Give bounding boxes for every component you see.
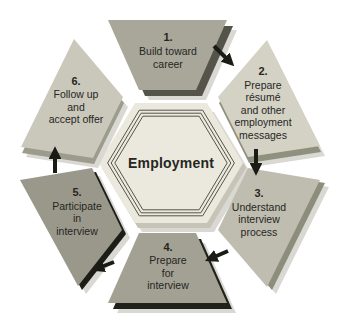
step-4-line: Prepare	[149, 254, 187, 266]
step-6-line: Follow up	[54, 88, 99, 100]
step-3-line: Understand	[232, 201, 286, 213]
step-2-line: Prepare	[244, 79, 282, 91]
step-4-line: interview	[147, 279, 189, 291]
center-label: Employment	[128, 155, 214, 171]
step-2-line: résumé	[245, 91, 280, 103]
step-5-line: Participate	[52, 200, 102, 212]
employment-cycle-diagram: Employment 1. Build toward career 2. Pre…	[0, 0, 341, 322]
step-6-number: 6.	[71, 75, 80, 87]
step-6-line: and	[67, 101, 85, 113]
step-4-prepare-for-interview: 4. Prepare for interview	[108, 233, 236, 313]
step-3-number: 3.	[254, 187, 263, 199]
step-1-line: Build toward	[139, 45, 197, 57]
step-4-number: 4.	[163, 241, 172, 253]
arrow-3-to-4-icon	[213, 251, 228, 258]
step-5-line: in	[73, 212, 81, 224]
step-1-number: 1.	[163, 31, 172, 43]
step-1-line: career	[153, 58, 183, 70]
step-3-line: process	[241, 226, 278, 238]
step-5-line: interview	[56, 225, 98, 237]
step-6-line: accept offer	[49, 113, 104, 125]
step-2-number: 2.	[258, 65, 267, 77]
step-1-build-toward-career: 1. Build toward career	[108, 20, 237, 100]
step-3-line: interview	[238, 213, 280, 225]
step-4-line: for	[162, 267, 175, 279]
step-2-line: and other	[241, 104, 286, 116]
diagram-canvas: Employment 1. Build toward career 2. Pre…	[0, 0, 341, 322]
step-5-number: 5.	[72, 186, 81, 198]
step-2-line: messages	[239, 129, 287, 141]
step-2-line: employment	[234, 116, 291, 128]
